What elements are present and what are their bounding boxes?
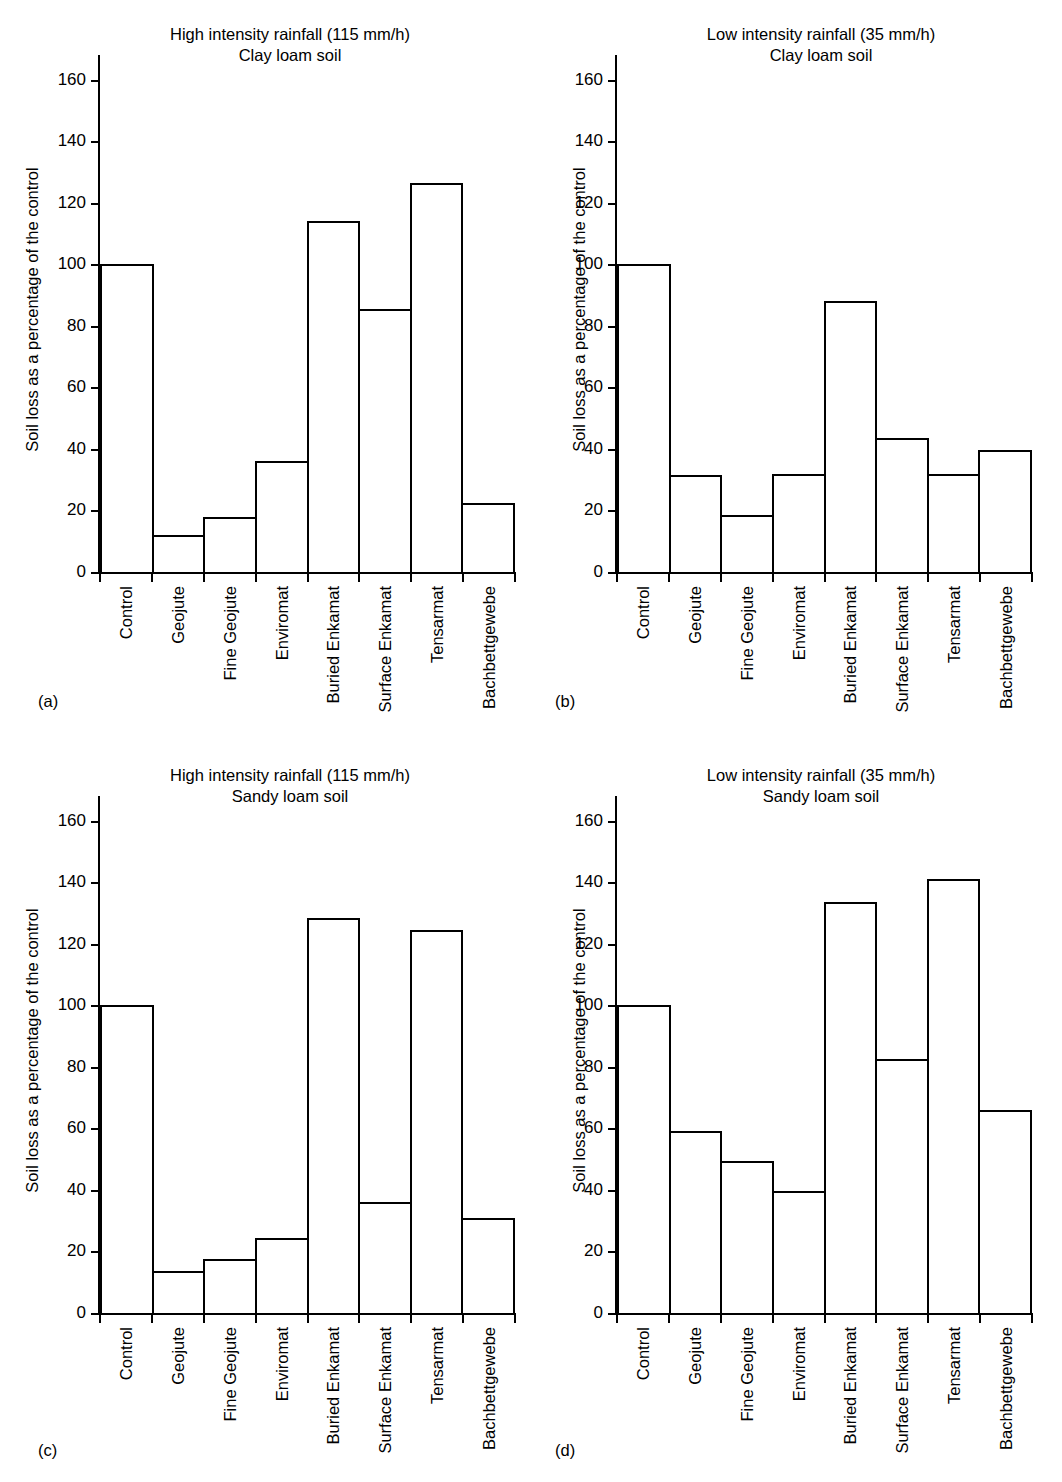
y-tick-label: 160 [575,70,603,90]
y-tick-mark-icon [91,821,100,823]
bar [307,918,361,1313]
y-tick-mark-icon [608,387,617,389]
y-axis-label-c: Soil loss as a percentage of the control [23,851,42,1251]
bar [461,1218,515,1313]
x-label-cell: Geojute [669,572,721,722]
y-tick-label: 0 [594,1303,603,1323]
y-tick-label: 100 [58,254,86,274]
y-tick-mark-icon [608,944,617,946]
y-tick-label: 160 [58,811,86,831]
x-tick-label: Enviromat [272,586,291,660]
x-tick-label: Bachbettgewebe [997,1327,1016,1450]
y-tick-label: 120 [58,193,86,213]
y-tick-label: 0 [77,1303,86,1323]
bar [927,879,981,1313]
x-tick-label: Buried Enkamat [841,586,860,703]
bar [617,264,671,572]
bar [100,264,154,572]
y-tick-mark-icon [608,510,617,512]
panel-a: High intensity rainfall (115 mm/h) Clay … [0,0,531,741]
x-label-cell: Bachbettgewebe [463,1313,515,1463]
bar [617,1005,671,1313]
x-label-cell: Bachbettgewebe [980,572,1032,722]
x-tick-label: Geojute [685,586,704,644]
y-tick-label: 120 [58,934,86,954]
bar [461,503,515,572]
x-label-cell: Buried Enkamat [825,1313,877,1463]
x-tick-label: Surface Enkamat [893,1327,912,1454]
y-tick-mark-icon [91,1005,100,1007]
y-tick-label: 40 [67,1180,86,1200]
y-tick-mark-icon [91,326,100,328]
plot-area-b: 020406080100120140160 ControlGeojuteFine… [615,55,1032,574]
y-tick-mark-icon [91,141,100,143]
bar [669,1131,723,1313]
x-label-cell: Geojute [152,572,204,722]
y-tick-mark-icon [91,449,100,451]
x-tick-label: Buried Enkamat [324,1327,343,1444]
x-tick-label: Control [633,586,652,639]
y-tick-label: 80 [67,316,86,336]
y-tick-label: 0 [77,562,86,582]
plot-area-d: 020406080100120140160 ControlGeojuteFine… [615,796,1032,1315]
x-tick-label: Geojute [168,1327,187,1385]
y-tick-mark-icon [608,203,617,205]
x-label-cell: Tensarmat [928,572,980,722]
x-label-cell: Surface Enkamat [876,1313,928,1463]
bar [927,474,981,572]
y-tick-label: 100 [58,995,86,1015]
y-tick-label: 100 [575,254,603,274]
panel-c: High intensity rainfall (115 mm/h) Sandy… [0,741,531,1482]
bar [875,1059,929,1313]
x-label-cell: Control [617,572,669,722]
y-tick-label: 140 [575,131,603,151]
bar [152,1271,206,1313]
y-tick-label: 20 [584,500,603,520]
panel-d: Low intensity rainfall (35 mm/h) Sandy l… [531,741,1062,1482]
y-tick-mark-icon [608,326,617,328]
bar [255,461,309,572]
x-tick-label: Surface Enkamat [376,1327,395,1454]
x-label-cell: Fine Geojute [721,572,773,722]
y-tick-label: 40 [67,439,86,459]
bar [255,1238,309,1313]
plot-area-a: 020406080100120140160 ControlGeojuteFine… [98,55,515,574]
x-tick-label: Fine Geojute [220,586,239,680]
bar-series-c [100,796,515,1313]
y-tick-mark-icon [91,1251,100,1253]
bar [978,1110,1032,1313]
y-tick-mark-icon [91,1128,100,1130]
bar [358,309,412,572]
y-tick-mark-icon [91,264,100,266]
y-tick-mark-icon [608,1251,617,1253]
x-label-cell: Surface Enkamat [359,572,411,722]
x-label-cell: Buried Enkamat [308,1313,360,1463]
x-tick-label: Tensarmat [428,1327,447,1404]
bar [669,475,723,572]
x-tick-label: Control [116,586,135,639]
bar [307,221,361,572]
x-label-cell: Enviromat [773,1313,825,1463]
x-tick-label: Fine Geojute [220,1327,239,1421]
y-tick-label: 160 [58,70,86,90]
bar [772,474,826,572]
x-label-cell: Bachbettgewebe [980,1313,1032,1463]
x-axis-labels-b: ControlGeojuteFine GeojuteEnviromatBurie… [617,572,1032,722]
bar [824,301,878,572]
y-tick-label: 60 [584,377,603,397]
y-tick-mark-icon [608,80,617,82]
bar [410,183,464,572]
x-label-cell: Tensarmat [411,572,463,722]
x-label-cell: Fine Geojute [204,1313,256,1463]
x-tick-label: Tensarmat [945,586,964,663]
y-tick-mark-icon [608,1190,617,1192]
x-tick-label: Buried Enkamat [841,1327,860,1444]
y-tick-label: 60 [67,1118,86,1138]
bar [720,1161,774,1313]
bar [978,450,1032,572]
panel-b: Low intensity rainfall (35 mm/h) Clay lo… [531,0,1062,741]
x-tick-label: Geojute [168,586,187,644]
x-tick-label: Geojute [685,1327,704,1385]
y-tick-label: 60 [67,377,86,397]
bar [824,902,878,1313]
